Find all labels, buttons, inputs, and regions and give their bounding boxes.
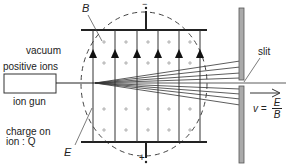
ion-gun-label: ion gun: [13, 97, 46, 107]
b-leader-line: [88, 15, 102, 41]
slit-plate-top: [239, 8, 244, 80]
electric-field-lines: [93, 30, 200, 142]
bottom-plate-sign: +: [139, 153, 145, 163]
e-leader-line: [75, 108, 92, 145]
magnetic-field-label: B: [82, 3, 89, 14]
diagram-graphic: [0, 0, 286, 164]
ion-gun: [4, 74, 56, 93]
slit-plate-bottom: [239, 86, 244, 163]
ion-charge-label: ion : Q: [6, 137, 35, 147]
top-plate-sign: −: [142, 0, 147, 9]
velocity-formula-numerator: E: [272, 98, 282, 108]
velocity-selector-diagram: B vacuum positive ions ion gun charge on…: [0, 0, 286, 164]
velocity-formula-denominator: B: [272, 110, 282, 120]
electric-field-label: E: [64, 147, 71, 158]
slit-label: slit: [258, 47, 270, 57]
vacuum-label: vacuum: [26, 46, 61, 56]
slit-leader-line: [244, 58, 260, 82]
positive-ions-label: positive ions: [3, 62, 58, 72]
field-arrow-icons: [89, 49, 204, 58]
bottom-terminal-dot: [145, 161, 147, 163]
ion-beam-paths: [95, 61, 286, 105]
velocity-formula-lhs: v =: [253, 104, 267, 114]
